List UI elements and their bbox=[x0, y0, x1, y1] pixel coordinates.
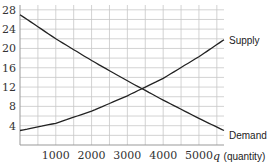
demand-label: Demand bbox=[229, 130, 267, 141]
supply-demand-chart: 481216202428 10002000300040005000 Supply… bbox=[0, 0, 273, 163]
y-tick-label: 24 bbox=[2, 23, 16, 36]
x-tick-label: 4000 bbox=[149, 149, 177, 162]
y-tick-label: 28 bbox=[2, 4, 16, 17]
x-tick-label: 1000 bbox=[42, 149, 70, 162]
y-tick-label: 4 bbox=[9, 120, 16, 133]
supply-curve bbox=[20, 40, 224, 131]
x-tick-label: 3000 bbox=[113, 149, 141, 162]
x-axis-ticks: 10002000300040005000 bbox=[42, 149, 213, 162]
x-tick-label: 2000 bbox=[78, 149, 106, 162]
x-axis-label: q (quantity) bbox=[213, 150, 265, 163]
y-tick-label: 20 bbox=[2, 42, 16, 55]
y-tick-label: 8 bbox=[9, 100, 16, 113]
demand-curve bbox=[20, 15, 224, 131]
x-tick-label: 5000 bbox=[185, 149, 213, 162]
supply-label: Supply bbox=[229, 35, 260, 46]
curves bbox=[20, 15, 224, 131]
y-tick-label: 12 bbox=[2, 81, 16, 94]
y-tick-label: 16 bbox=[2, 62, 16, 75]
curve-labels: SupplyDemand bbox=[229, 35, 267, 141]
y-axis-ticks: 481216202428 bbox=[2, 4, 16, 133]
